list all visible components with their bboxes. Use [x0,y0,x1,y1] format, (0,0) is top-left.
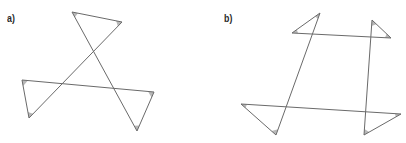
segment [137,92,154,131]
segment [22,80,154,92]
segment [241,104,401,114]
figure-b-star-polygon [241,13,401,135]
segment [29,22,122,118]
segment [276,13,320,135]
segment [72,12,137,131]
segment [241,104,276,135]
segment [72,12,122,22]
figure-a-star-polygon [22,12,154,131]
segment [22,80,29,118]
segment [364,114,401,135]
diagram-canvas [0,0,406,143]
segment [292,33,391,38]
segment [292,13,320,33]
segment [372,20,391,38]
